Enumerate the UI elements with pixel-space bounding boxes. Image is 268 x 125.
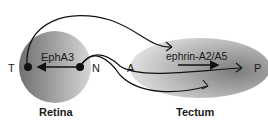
ephrin-label: ephrin-A2/A5 (166, 50, 227, 62)
diagram-canvas: EphA3 ephrin-A2/A5 T N A P Retina Tectum (0, 0, 268, 125)
anterior-pole-label: A (127, 62, 135, 74)
tectum-shape (130, 38, 268, 98)
temporal-pole-label: T (8, 62, 15, 74)
epha3-label: EphA3 (41, 51, 74, 63)
nasal-pole-label: N (92, 62, 100, 74)
tectum-label: Tectum (176, 106, 215, 118)
retina-label: Retina (39, 106, 74, 118)
retinotectal-map-diagram: EphA3 ephrin-A2/A5 T N A P Retina Tectum (0, 0, 268, 125)
nasal-cell-dot (76, 63, 84, 71)
posterior-pole-label: P (254, 62, 261, 74)
temporal-cell-dot (24, 63, 32, 71)
